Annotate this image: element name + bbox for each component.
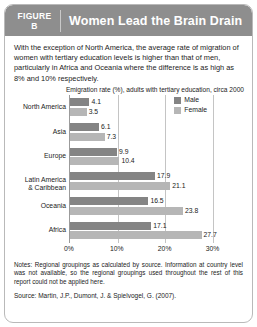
chart-subtitle: Emigration rate (%), adults with tertiar… bbox=[66, 86, 244, 93]
bar-value-label: 17.1 bbox=[153, 222, 166, 230]
category-label-column: North AmericaAsiaEuropeLatin America& Ca… bbox=[11, 95, 69, 243]
header-divider bbox=[60, 10, 61, 32]
legend-item-female: Female bbox=[174, 106, 207, 115]
bar-value-label: 10.4 bbox=[121, 157, 134, 165]
bar-value-label: 16.5 bbox=[150, 197, 163, 205]
figure-header: FIGURE B Women Lead the Brain Drain bbox=[5, 5, 252, 36]
bar-value-label: 4.1 bbox=[91, 98, 100, 106]
chart-bar bbox=[70, 197, 148, 205]
chart-bar bbox=[70, 172, 155, 180]
legend-label-male: Male bbox=[184, 96, 199, 104]
bar-value-label: 3.5 bbox=[89, 108, 98, 116]
bar-value-label: 9.9 bbox=[119, 148, 128, 156]
gridline bbox=[165, 95, 166, 243]
bar-value-label: 6.1 bbox=[101, 123, 110, 131]
chart-bar bbox=[70, 157, 119, 165]
figure-letter: B bbox=[11, 21, 58, 31]
bar-value-label: 7.3 bbox=[107, 133, 116, 141]
x-axis-tick-label: 30% bbox=[206, 245, 220, 252]
legend-swatch-female bbox=[174, 107, 181, 114]
chart-plot-area: 4.13.56.17.39.910.417.921.116.523.817.12… bbox=[69, 95, 222, 243]
category-label: North America bbox=[23, 103, 66, 111]
chart-bar bbox=[70, 182, 170, 190]
chart-bar bbox=[70, 148, 117, 156]
bar-value-label: 27.7 bbox=[204, 231, 217, 239]
chart-bar bbox=[70, 108, 87, 116]
chart-container: Emigration rate (%), adults with tertiar… bbox=[11, 86, 246, 258]
bar-value-label: 23.8 bbox=[185, 207, 198, 215]
x-axis-tick-label: 10% bbox=[110, 245, 124, 252]
chart-bar bbox=[70, 231, 202, 239]
legend-label-female: Female bbox=[184, 106, 207, 114]
chart-bar bbox=[70, 133, 105, 141]
gridline bbox=[118, 95, 119, 243]
figure-word: FIGURE bbox=[18, 11, 52, 21]
category-label: Oceania bbox=[41, 202, 66, 210]
chart-bar bbox=[70, 123, 99, 131]
chart-source: Source: Martin, J.P., Dumont, J. & Spiel… bbox=[14, 292, 243, 301]
chart-bar bbox=[70, 98, 89, 106]
bar-value-label: 21.1 bbox=[172, 182, 185, 190]
intro-paragraph: With the exception of North America, the… bbox=[5, 36, 252, 86]
category-label: Africa bbox=[49, 226, 66, 234]
chart-bar bbox=[70, 222, 151, 230]
chart-plot: North AmericaAsiaEuropeLatin America& Ca… bbox=[11, 95, 246, 243]
category-label: Latin America& Caribbean bbox=[25, 176, 66, 192]
chart-legend: Male Female bbox=[172, 95, 210, 117]
x-axis-tick-label: 0% bbox=[64, 245, 74, 252]
x-axis-tick-label: 20% bbox=[158, 245, 172, 252]
figure-tag: FIGURE B bbox=[11, 11, 58, 31]
legend-item-male: Male bbox=[174, 96, 207, 105]
notes-block: Notes: Regional groupings as calculated … bbox=[5, 258, 252, 300]
gridline bbox=[213, 95, 214, 243]
x-axis-labels: 0%10%20%30% bbox=[69, 245, 222, 255]
category-label: Asia bbox=[53, 128, 66, 136]
figure-title: Women Lead the Brain Drain bbox=[69, 14, 242, 28]
bar-value-label: 17.9 bbox=[157, 172, 170, 180]
chart-bar bbox=[70, 207, 183, 215]
legend-swatch-male bbox=[174, 97, 181, 104]
chart-notes: Notes: Regional groupings as calculated … bbox=[14, 261, 243, 287]
category-label: Europe bbox=[44, 152, 66, 160]
figure-card: FIGURE B Women Lead the Brain Drain With… bbox=[4, 4, 253, 323]
